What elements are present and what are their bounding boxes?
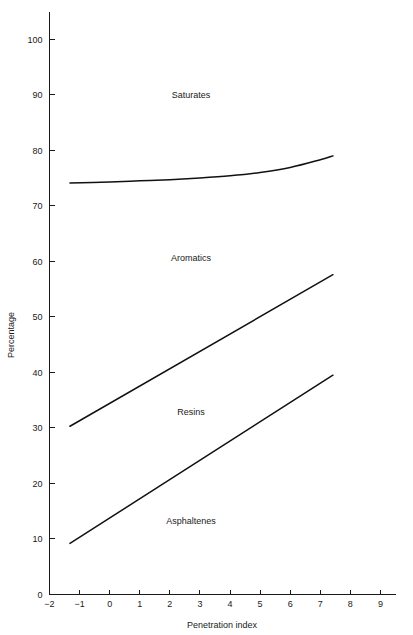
region-label-asphaltenes: Asphaltenes bbox=[166, 516, 216, 526]
x-tick-label: −2 bbox=[44, 599, 54, 609]
y-tick-label: 30 bbox=[32, 423, 42, 433]
x-tick-label: 6 bbox=[288, 599, 293, 609]
x-tick-label: 4 bbox=[228, 599, 233, 609]
y-tick-label: 20 bbox=[32, 479, 42, 489]
y-tick-label: 40 bbox=[32, 368, 42, 378]
y-tick-label: 0 bbox=[37, 590, 42, 600]
chart-figure: −2−10123456789 0102030405060708090100 Sa… bbox=[0, 0, 413, 635]
y-axis-title: Percentage bbox=[6, 312, 16, 358]
x-tick-label: 7 bbox=[318, 599, 323, 609]
x-tick-label: 9 bbox=[378, 599, 383, 609]
y-tick-label: 70 bbox=[32, 201, 42, 211]
x-tick-label: 1 bbox=[137, 599, 142, 609]
x-tick-label: 8 bbox=[348, 599, 353, 609]
chart-plot-area: −2−10123456789 0102030405060708090100 Sa… bbox=[0, 0, 413, 635]
y-tick-label: 80 bbox=[32, 146, 42, 156]
y-tick-label: 10 bbox=[32, 534, 42, 544]
x-axis-title: Penetration index bbox=[187, 620, 258, 630]
x-tick-label: −1 bbox=[74, 599, 84, 609]
x-tick-label: 3 bbox=[197, 599, 202, 609]
y-tick-label: 100 bbox=[27, 35, 42, 45]
x-tick-label: 0 bbox=[107, 599, 112, 609]
x-tick-label: 5 bbox=[258, 599, 263, 609]
x-tick-label: 2 bbox=[167, 599, 172, 609]
y-tick-label: 60 bbox=[32, 257, 42, 267]
y-tick-label: 50 bbox=[32, 312, 42, 322]
region-label-saturates: Saturates bbox=[172, 90, 211, 100]
region-label-aromatics: Aromatics bbox=[171, 253, 212, 263]
region-label-resins: Resins bbox=[177, 407, 205, 417]
y-tick-label: 90 bbox=[32, 90, 42, 100]
